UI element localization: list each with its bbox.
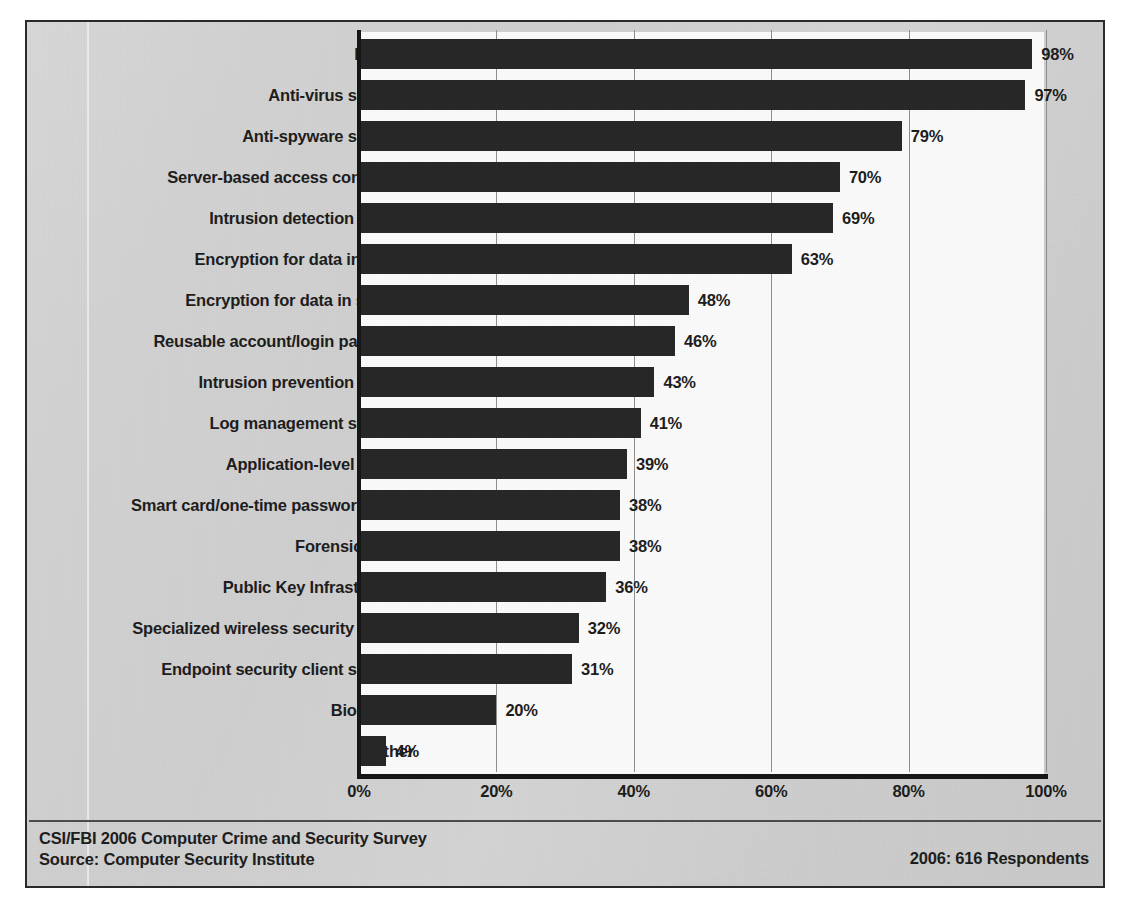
bar	[359, 449, 627, 479]
bar-value-label: 31%	[581, 649, 613, 690]
x-tick-label: 80%	[892, 782, 924, 801]
bar-value-label: 41%	[650, 403, 682, 444]
bar-value-label: 39%	[636, 444, 668, 485]
bar	[359, 203, 833, 233]
bar-row: Smart card/one-time password token38%	[27, 485, 1103, 526]
bar-value-label: 20%	[505, 690, 537, 731]
bar	[359, 490, 620, 520]
bar-value-label: 38%	[629, 485, 661, 526]
x-tick-label: 40%	[618, 782, 650, 801]
figure-frame: Firewall98%Anti-virus software97%Anti-sp…	[25, 20, 1105, 888]
bar-row: Log management software41%	[27, 403, 1103, 444]
bar	[359, 244, 792, 274]
x-tick-label: 0%	[347, 782, 370, 801]
source-caption: CSI/FBI 2006 Computer Crime and Security…	[39, 828, 427, 870]
respondents-count: 2006: 616 Respondents	[910, 849, 1089, 868]
bar	[359, 572, 606, 602]
x-axis-line	[357, 774, 1048, 779]
bar	[359, 367, 654, 397]
bar-value-label: 63%	[801, 239, 833, 280]
bar-row: Encryption for data in storage48%	[27, 280, 1103, 321]
bar-value-label: 98%	[1041, 34, 1073, 75]
bar-value-label: 79%	[911, 116, 943, 157]
bar-row: Public Key Infrastructure36%	[27, 567, 1103, 608]
bar	[359, 736, 386, 766]
bar	[359, 326, 675, 356]
x-tick-label: 60%	[755, 782, 787, 801]
bar-chart: Firewall98%Anti-virus software97%Anti-sp…	[27, 22, 1103, 886]
bar	[359, 162, 840, 192]
bar-value-label: 43%	[663, 362, 695, 403]
bar-row: Specialized wireless security system32%	[27, 608, 1103, 649]
bar-row: Server-based access control list70%	[27, 157, 1103, 198]
bar-value-label: 97%	[1034, 75, 1066, 116]
bar	[359, 39, 1032, 69]
bar-row: Endpoint security client software31%	[27, 649, 1103, 690]
survey-title: CSI/FBI 2006 Computer Crime and Security…	[39, 828, 427, 849]
bar	[359, 531, 620, 561]
bar-row: Anti-virus software97%	[27, 75, 1103, 116]
bar-row: Firewall98%	[27, 34, 1103, 75]
bar-value-label: 70%	[849, 157, 881, 198]
bar-row: Application-level firewall39%	[27, 444, 1103, 485]
y-axis-line	[357, 30, 361, 778]
survey-source: Source: Computer Security Institute	[39, 849, 427, 870]
bar	[359, 121, 902, 151]
x-tick-label: 20%	[480, 782, 512, 801]
bar-row: Other4%	[27, 731, 1103, 772]
bar	[359, 285, 689, 315]
bar	[359, 654, 572, 684]
bar-value-label: 69%	[842, 198, 874, 239]
bar	[359, 408, 641, 438]
footer-divider	[29, 820, 1101, 822]
bar-row: Intrusion prevention system43%	[27, 362, 1103, 403]
bar	[359, 80, 1025, 110]
bar-value-label: 36%	[615, 567, 647, 608]
bar-row: Forensics tools38%	[27, 526, 1103, 567]
x-tick-label: 100%	[1025, 782, 1066, 801]
bar-value-label: 38%	[629, 526, 661, 567]
bar-row: Intrusion detection system69%	[27, 198, 1103, 239]
bar-row: Anti-spyware software79%	[27, 116, 1103, 157]
bar-value-label: 4%	[395, 731, 418, 772]
bar-row: Encryption for data in transit63%	[27, 239, 1103, 280]
bar-value-label: 48%	[698, 280, 730, 321]
chart-page: Firewall98%Anti-virus software97%Anti-sp…	[0, 0, 1129, 912]
bar	[359, 613, 579, 643]
bar-value-label: 46%	[684, 321, 716, 362]
bar	[359, 695, 496, 725]
bar-value-label: 32%	[588, 608, 620, 649]
bar-row: Reusable account/login password46%	[27, 321, 1103, 362]
bar-row: Biometrics20%	[27, 690, 1103, 731]
